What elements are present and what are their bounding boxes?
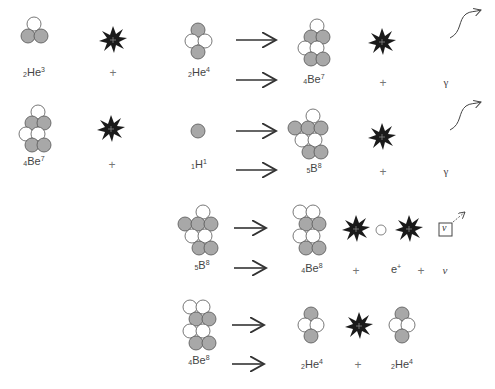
plus-sign: +: [417, 264, 424, 278]
nucleus-he4: [389, 307, 415, 343]
energy-burst-icon: [345, 312, 373, 339]
plus-sign: +: [354, 358, 361, 372]
neutrino-box-label: ν: [442, 222, 446, 233]
energy-burst-icon: [368, 123, 396, 150]
nucleus-he4: [298, 307, 324, 343]
energy-burst-icon: [99, 26, 127, 53]
nucleus-he4: [185, 23, 212, 59]
nucleus-be8: [293, 205, 326, 255]
nucleus-be8: [183, 300, 216, 350]
nucleus-be7: [298, 19, 330, 66]
gamma-label: γ: [444, 76, 449, 88]
gamma-label: γ: [444, 165, 449, 177]
nucleus-be7: [19, 105, 51, 152]
energy-burst-icon: [97, 115, 125, 142]
plus-sign: +: [379, 76, 386, 90]
label-he4: 2He4: [188, 66, 210, 78]
nucleus-h1: [191, 124, 205, 138]
nucleus-he3: [21, 17, 48, 43]
label-he4: 2He4: [301, 358, 323, 370]
label-b8: 5B8: [306, 162, 321, 174]
neutrino-emission-arrow: [453, 212, 465, 222]
label-be8: 4Be8: [188, 354, 209, 366]
plus-sign: +: [109, 66, 116, 80]
label-be7: 4Be7: [23, 155, 44, 167]
nucleus-b8: [178, 205, 218, 255]
positron-icon: [376, 225, 386, 235]
label-he3: 2He3: [23, 66, 45, 78]
label-h1: 1H1: [191, 158, 207, 170]
label-be8: 4Be8: [301, 262, 322, 274]
gamma-ray-icon: [450, 102, 481, 130]
positron-label: e+: [391, 263, 401, 275]
neutrino-label: ν: [443, 264, 448, 276]
label-b8: 5B8: [194, 259, 209, 271]
label-he4: 2He4: [391, 358, 413, 370]
reaction-diagram-graphics: [0, 0, 495, 389]
gamma-ray-icon: [450, 10, 481, 38]
energy-burst-icon: [342, 215, 370, 242]
plus-sign: +: [352, 264, 359, 278]
plus-sign: +: [379, 165, 386, 179]
nucleus-b8: [288, 109, 328, 159]
plus-sign: +: [108, 158, 115, 172]
energy-burst-icon: [395, 215, 423, 242]
label-be7: 4Be7: [303, 73, 324, 85]
energy-burst-icon: [368, 28, 396, 55]
